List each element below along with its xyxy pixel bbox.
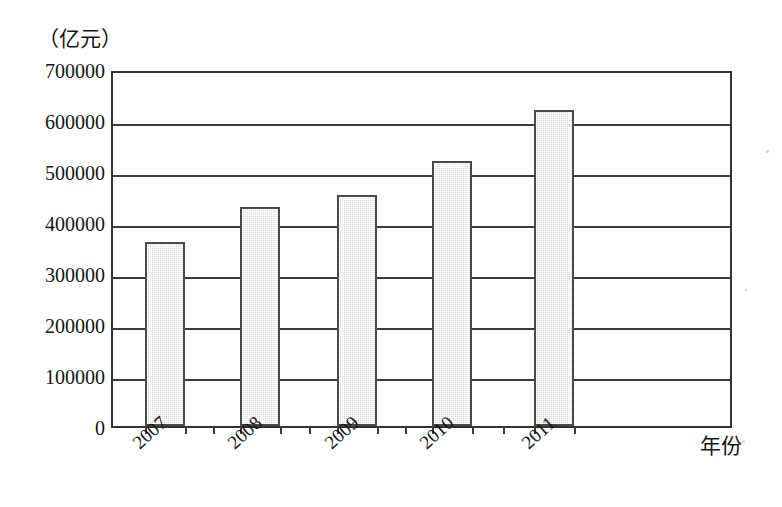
scan-artifact: [745, 289, 747, 291]
gridline: [113, 277, 730, 279]
y-axis-tick-label: 0: [1, 418, 105, 438]
y-axis-tick-label: 700000: [1, 61, 105, 81]
x-axis-tick: [472, 426, 474, 434]
x-axis-category-labels: 20072008200920102011: [111, 434, 732, 504]
y-axis-tick-label: 100000: [1, 367, 105, 387]
plot-area: [111, 71, 732, 428]
gridline: [113, 124, 730, 126]
gridline: [113, 328, 730, 330]
y-axis-tick-label: 500000: [1, 163, 105, 183]
x-axis-tick: [574, 426, 576, 434]
gridline: [113, 379, 730, 381]
bar: [240, 207, 280, 426]
x-axis-tick: [377, 426, 379, 434]
gridline: [113, 175, 730, 177]
x-axis-tick: [213, 426, 215, 434]
gridline: [113, 226, 730, 228]
x-axis-title: 年份: [700, 434, 742, 458]
bar-chart-figure: （亿元） 01000002000003000004000005000006000…: [0, 0, 782, 507]
y-axis-tick-label: 200000: [1, 316, 105, 336]
scan-artifact: [742, 440, 745, 443]
x-axis-tick: [503, 426, 505, 434]
y-axis-tick-labels: 0100000200000300000400000500000600000700…: [0, 0, 105, 507]
y-axis-tick-label: 400000: [1, 214, 105, 234]
bar: [337, 195, 377, 426]
y-axis-tick-label: 300000: [1, 265, 105, 285]
x-axis-tick: [280, 426, 282, 434]
y-axis-tick-label: 600000: [1, 112, 105, 132]
bar: [432, 161, 472, 426]
scan-artifact: [766, 150, 769, 153]
bar: [534, 110, 574, 426]
x-axis-tick: [185, 426, 187, 434]
bar: [145, 242, 185, 426]
x-axis-tick: [309, 426, 311, 434]
x-axis-tick: [405, 426, 407, 434]
